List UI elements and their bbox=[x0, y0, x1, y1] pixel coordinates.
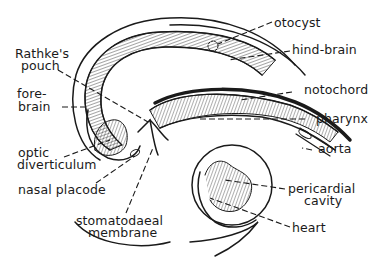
label-notochord: notochord bbox=[304, 84, 368, 96]
label-pericardial-line2: cavity bbox=[304, 195, 342, 207]
label-heart: heart bbox=[292, 222, 326, 234]
label-fore-brain-line2: brain bbox=[18, 101, 51, 113]
label-hind-brain: hind-brain bbox=[292, 44, 357, 56]
label-pharynx: pharynx bbox=[316, 113, 368, 125]
heart-shape bbox=[205, 161, 252, 211]
label-aorta: aorta bbox=[318, 143, 352, 155]
embryo-head-diagram: otocyst hind-brain Rathke's pouch fore- … bbox=[0, 0, 387, 273]
label-stomatodaeal-line2: membrane bbox=[88, 227, 157, 239]
label-optic-line2: diverticulum bbox=[17, 159, 97, 171]
label-nasal-placode: nasal placode bbox=[18, 184, 106, 196]
label-otocyst: otocyst bbox=[274, 17, 321, 29]
embryo-drawing bbox=[0, 0, 387, 273]
label-rathkes-pouch-line2: pouch bbox=[21, 60, 60, 72]
